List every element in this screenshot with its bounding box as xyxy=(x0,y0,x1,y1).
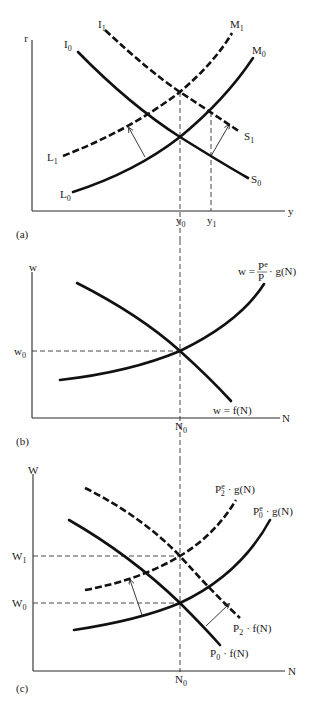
tick-W1: W1 xyxy=(12,550,26,565)
panel-b: w N w0 N0 w = Pe P · g(N) w = f(N) (b) xyxy=(14,240,297,460)
y-axis-label: y xyxy=(288,205,294,217)
label-M1: M1 xyxy=(230,18,244,33)
caption-c: (c) xyxy=(16,682,29,695)
label-P2e-g: Pe2· g(N) xyxy=(215,482,255,498)
caption-a: (a) xyxy=(16,228,29,241)
label-labor-supply: w = Pe P · g(N) xyxy=(238,260,297,283)
w-axis-label: w xyxy=(29,261,37,273)
label-M0: M0 xyxy=(252,44,266,59)
svg-text:P: P xyxy=(258,271,264,283)
demand-P2-curve xyxy=(85,488,240,618)
label-S0: S0 xyxy=(251,173,261,188)
W-axis-label: W xyxy=(28,464,39,476)
is0-curve xyxy=(78,52,248,178)
labor-supply-curve xyxy=(60,284,264,380)
tick-W0: W0 xyxy=(12,597,26,612)
label-L1: L1 xyxy=(47,151,58,166)
supply-shift-arrow xyxy=(130,580,142,615)
tick-w0: w0 xyxy=(14,345,26,360)
panel-c: W N W1 W0 N0 Pe2· g(N) Pe0· g(N) P2· f(N… xyxy=(12,460,296,695)
tick-N0-b: N0 xyxy=(175,420,187,435)
label-S1: S1 xyxy=(244,130,254,145)
label-P0e-g: Pe0· g(N) xyxy=(253,504,293,520)
is1-curve xyxy=(105,30,240,132)
is-shift-arrow xyxy=(211,125,229,156)
svg-text:· g(N): · g(N) xyxy=(269,265,297,278)
tick-N0-c: N0 xyxy=(175,673,187,688)
demand-shift-arrow xyxy=(206,604,229,626)
label-L0: L0 xyxy=(60,188,71,203)
macro-diagram: r y I1 I0 M1 M0 L1 L0 S1 S0 y0 y1 (a) w … xyxy=(0,0,310,705)
label-I0: I0 xyxy=(64,38,72,53)
supply-P0e-curve xyxy=(74,520,270,630)
label-P2-f: P2· f(N) xyxy=(233,622,272,637)
lm1-curve xyxy=(63,33,232,156)
lm-shift-arrow xyxy=(129,128,145,157)
svg-text:w =: w = xyxy=(238,265,255,277)
label-labor-demand: w = f(N) xyxy=(213,404,252,417)
N-axis-label-b: N xyxy=(282,412,290,424)
N-axis-label-c: N xyxy=(288,665,296,677)
tick-y1: y1 xyxy=(207,214,217,229)
r-axis-label: r xyxy=(24,32,28,44)
label-I1: I1 xyxy=(98,18,106,33)
tick-y0: y0 xyxy=(176,214,186,229)
labor-demand-curve xyxy=(77,283,231,401)
caption-b: (b) xyxy=(16,435,29,448)
panel-a: r y I1 I0 M1 M0 L1 L0 S1 S0 y0 y1 (a) xyxy=(16,18,294,241)
label-P0-f: P0· f(N) xyxy=(210,647,249,662)
